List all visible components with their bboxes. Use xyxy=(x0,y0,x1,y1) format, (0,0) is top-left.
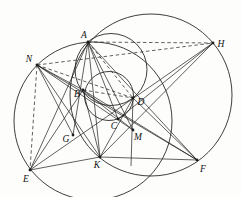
point-K xyxy=(99,156,102,159)
label-G: G xyxy=(63,134,70,144)
line-E-H xyxy=(30,43,213,170)
label-A: A xyxy=(80,30,87,40)
point-A xyxy=(87,41,90,44)
label-K: K xyxy=(93,160,101,170)
label-B: B xyxy=(74,89,80,99)
dashed-line-A-D xyxy=(88,42,133,98)
point-N xyxy=(36,64,39,67)
line-A-C xyxy=(88,42,118,119)
geometry-figure: ANHBDCMGKEF xyxy=(0,0,241,197)
line-E-B xyxy=(30,90,83,170)
label-N: N xyxy=(25,54,33,64)
line-B-M xyxy=(83,90,133,130)
right-large-circle xyxy=(70,14,232,176)
label-H: H xyxy=(217,39,226,49)
label-D: D xyxy=(137,97,145,107)
label-C: C xyxy=(111,121,118,131)
point-H xyxy=(212,42,215,45)
line-D-F xyxy=(133,98,197,160)
line-H-K xyxy=(100,43,213,157)
point-C xyxy=(117,118,120,121)
point-G xyxy=(72,134,75,137)
point-F xyxy=(196,159,199,162)
line-E-A xyxy=(30,42,88,170)
point-B xyxy=(82,89,85,92)
line-E-K xyxy=(30,157,100,170)
label-F: F xyxy=(199,164,206,174)
point-E xyxy=(29,169,32,172)
label-E: E xyxy=(22,174,29,184)
line-H-C xyxy=(118,43,213,119)
point-M xyxy=(132,129,135,132)
dashed-line-N-E xyxy=(30,65,37,170)
line-K-F xyxy=(100,157,197,160)
point-D xyxy=(132,97,135,100)
label-M: M xyxy=(133,132,143,142)
line-N-F xyxy=(37,65,197,160)
geometry-diagram: ANHBDCMGKEF xyxy=(0,0,241,197)
